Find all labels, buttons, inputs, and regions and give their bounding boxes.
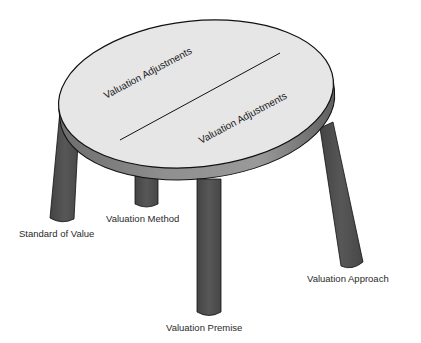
- label-valuation-premise: Valuation Premise: [166, 322, 242, 333]
- valuation-table-diagram: Valuation Adjustments Valuation Adjustme…: [0, 0, 421, 343]
- label-standard-of-value: Standard of Value: [19, 228, 94, 239]
- label-valuation-method: Valuation Method: [106, 213, 179, 224]
- label-valuation-approach: Valuation Approach: [307, 273, 389, 284]
- leg-valuation-approach: [320, 122, 363, 268]
- leg-valuation-premise: [197, 179, 221, 316]
